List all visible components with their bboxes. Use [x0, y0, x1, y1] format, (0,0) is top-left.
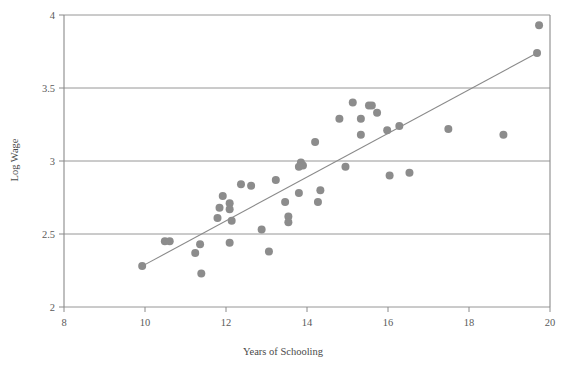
data-point	[316, 186, 324, 194]
data-point	[314, 198, 322, 206]
y-axis-ticks: 22.533.54	[42, 10, 64, 313]
data-point	[219, 192, 227, 200]
data-point	[281, 198, 289, 206]
data-point	[258, 226, 266, 234]
data-point	[295, 189, 303, 197]
data-point	[166, 237, 174, 245]
data-point	[373, 109, 381, 117]
data-point	[295, 163, 303, 171]
data-point	[237, 180, 245, 188]
y-tick-label: 3	[50, 156, 55, 167]
x-tick-label: 18	[464, 317, 475, 328]
data-point	[395, 122, 403, 130]
data-point	[368, 102, 376, 110]
y-tick-label: 2.5	[42, 229, 55, 240]
data-point	[247, 182, 255, 190]
grid-lines	[64, 15, 550, 307]
x-tick-label: 20	[545, 317, 556, 328]
data-point	[197, 269, 205, 277]
data-point	[311, 138, 319, 146]
y-tick-label: 2	[50, 302, 55, 313]
x-tick-label: 16	[383, 317, 394, 328]
data-point	[535, 21, 543, 29]
data-point	[226, 205, 234, 213]
data-point	[499, 131, 507, 139]
data-point	[284, 218, 292, 226]
data-point	[444, 125, 452, 133]
data-point	[386, 172, 394, 180]
x-tick-label: 12	[221, 317, 232, 328]
x-tick-label: 14	[302, 317, 313, 328]
data-points	[138, 21, 543, 277]
data-point	[383, 126, 391, 134]
y-tick-label: 4	[50, 10, 56, 21]
data-point	[405, 169, 413, 177]
data-point	[228, 217, 236, 225]
x-tick-label: 8	[61, 317, 66, 328]
data-point	[213, 214, 221, 222]
data-point	[138, 262, 146, 270]
y-axis-label: Log Wage	[9, 138, 20, 181]
data-point	[272, 176, 280, 184]
data-point	[196, 240, 204, 248]
x-axis-label: Years of Schooling	[243, 346, 324, 357]
data-point	[357, 115, 365, 123]
data-point	[335, 115, 343, 123]
scatter-chart: 8101214161820 22.533.54 Years of Schooli…	[0, 0, 567, 375]
data-point	[216, 204, 224, 212]
data-point	[226, 239, 234, 247]
data-point	[349, 99, 357, 107]
x-axis-ticks: 8101214161820	[61, 307, 555, 328]
data-point	[341, 163, 349, 171]
data-point	[265, 248, 273, 256]
x-tick-label: 10	[140, 317, 151, 328]
data-point	[357, 131, 365, 139]
data-point	[533, 49, 541, 57]
chart-svg: 8101214161820 22.533.54 Years of Schooli…	[0, 0, 567, 375]
data-point	[191, 249, 199, 257]
y-tick-label: 3.5	[42, 83, 55, 94]
